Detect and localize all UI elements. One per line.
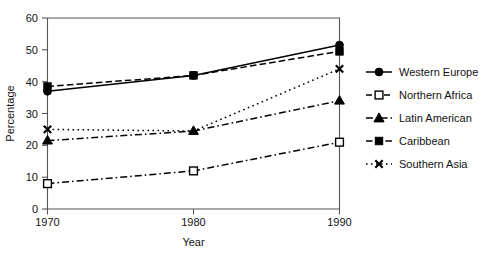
legend-item-latin-american[interactable]: Latin American — [366, 112, 472, 124]
x-tick-label-1970: 1970 — [35, 216, 59, 228]
legend-item-western-europe[interactable]: Western Europe — [366, 66, 478, 78]
chart-legend: Western Europe Northern Africa Latin Ame… — [366, 66, 478, 170]
x-tick-label-1990: 1990 — [327, 216, 351, 228]
marker-triangle-1990 — [335, 96, 345, 105]
y-tick-label-50: 50 — [26, 44, 38, 56]
y-tick-label-20: 20 — [26, 139, 38, 151]
series-line-western-europe — [48, 45, 340, 91]
x-axis-title: Year — [182, 236, 205, 248]
series-markers-latin-american — [43, 96, 345, 145]
y-tick-label-10: 10 — [26, 171, 38, 183]
series-line-caribbean — [48, 51, 340, 86]
marker-circle-1990 — [336, 41, 344, 49]
legend-item-northern-africa[interactable]: Northern Africa — [366, 89, 473, 101]
legend-item-caribbean[interactable]: Caribbean — [366, 135, 450, 147]
line-chart: 0 10 20 30 40 50 60 1970 1980 1990 Year … — [0, 0, 492, 255]
marker-open-square-1980 — [190, 167, 198, 175]
legend-item-southern-asia[interactable]: Southern Asia — [366, 158, 468, 170]
legend-marker-open-square-icon — [375, 91, 383, 99]
legend-marker-filled-square-icon — [375, 137, 382, 144]
legend-label-northern-africa: Northern Africa — [399, 89, 473, 101]
marker-circle-1980 — [190, 72, 198, 80]
series-markers-northern-africa — [44, 138, 344, 187]
y-tick-label-30: 30 — [26, 108, 38, 120]
legend-label-western-europe: Western Europe — [399, 66, 478, 78]
legend-marker-circle-icon — [375, 68, 383, 76]
y-tick-label-40: 40 — [26, 76, 38, 88]
y-axis-tick-labels: 0 10 20 30 40 50 60 — [26, 12, 38, 215]
legend-label-caribbean: Caribbean — [399, 135, 450, 147]
marker-open-square-1990 — [336, 138, 344, 146]
x-axis-tick-labels: 1970 1980 1990 — [35, 216, 351, 228]
y-tick-label-60: 60 — [26, 12, 38, 24]
series-line-northern-africa — [48, 142, 340, 183]
y-axis-title: Percentage — [4, 85, 16, 141]
marker-open-square-1970 — [44, 180, 52, 188]
y-tick-label-0: 0 — [32, 203, 38, 215]
marker-circle-1970 — [44, 87, 52, 95]
legend-label-southern-asia: Southern Asia — [399, 158, 468, 170]
x-axis-ticks — [48, 209, 340, 215]
chart-figure: 0 10 20 30 40 50 60 1970 1980 1990 Year … — [0, 0, 492, 255]
legend-label-latin-american: Latin American — [399, 112, 472, 124]
x-tick-label-1980: 1980 — [181, 216, 205, 228]
